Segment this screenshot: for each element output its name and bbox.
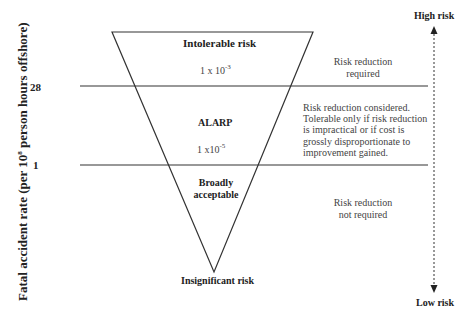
low-risk-label: Low risk [416,297,454,309]
region-broadly-acceptable-label: Broadly acceptable [186,177,246,200]
region-alarp-value: 1 x10-5 [197,142,225,156]
y-tick-1: 1 [33,159,39,172]
note-risk-reduction-not-required: Risk reduction not required [318,197,408,220]
high-risk-label: High risk [414,10,454,22]
arrow-down-icon [431,285,438,293]
region-intolerable-label: Intolerable risk [183,37,256,50]
note-risk-reduction-considered: Risk reduction considered. Tolerable onl… [303,102,427,158]
region-alarp-label: ALARP [198,117,232,129]
arrow-up-icon [431,26,438,34]
y-tick-28: 28 [30,81,41,94]
note-risk-reduction-required: Risk reduction required [318,56,408,79]
y-axis-label: Fatal accident rate (per 108 person hour… [15,31,31,301]
apex-insignificant-risk-label: Insignificant risk [181,275,254,287]
region-intolerable-value: 1 x 10-3 [200,63,231,77]
